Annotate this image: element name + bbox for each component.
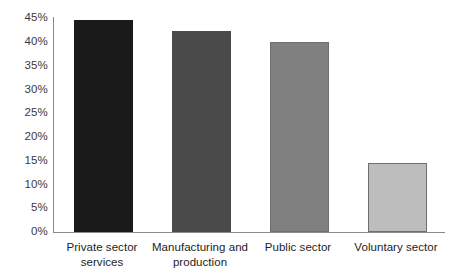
category-label-line: Private sector — [47, 240, 157, 255]
y-axis-tick-45pct: 45% — [0, 13, 48, 25]
category-label-line: Public sector — [243, 240, 353, 255]
y-axis-tick-25pct: 25% — [0, 108, 48, 120]
y-axis-tick-15pct: 15% — [0, 155, 48, 167]
category-label-4: Voluntary sector — [341, 240, 451, 255]
bar-1 — [74, 20, 133, 232]
y-axis-tick-0pct: 0% — [0, 226, 48, 238]
category-label-2: Manufacturing andproduction — [145, 240, 255, 270]
category-label-line: production — [145, 255, 255, 270]
bar-chart: 0%5%10%15%20%25%30%35%40%45% Private sec… — [0, 0, 469, 278]
plot-area — [53, 0, 445, 233]
category-label-line: services — [47, 255, 157, 270]
y-axis-tick-10pct: 10% — [0, 179, 48, 191]
category-label-line: Manufacturing and — [145, 240, 255, 255]
y-axis-tick-20pct: 20% — [0, 131, 48, 143]
category-label-1: Private sectorservices — [47, 240, 157, 270]
bar-4 — [368, 163, 427, 232]
category-label-3: Public sector — [243, 240, 353, 255]
x-axis-category-labels: Private sectorservicesManufacturing andp… — [53, 240, 445, 278]
bar-3 — [270, 42, 329, 232]
y-axis-tick-labels: 0%5%10%15%20%25%30%35%40%45% — [0, 0, 48, 278]
y-axis-tick-5pct: 5% — [0, 203, 48, 215]
bar-2 — [172, 31, 231, 232]
category-label-line: Voluntary sector — [341, 240, 451, 255]
y-axis-tick-30pct: 30% — [0, 84, 48, 96]
y-axis-tick-35pct: 35% — [0, 60, 48, 72]
y-axis-tick-40pct: 40% — [0, 36, 48, 48]
